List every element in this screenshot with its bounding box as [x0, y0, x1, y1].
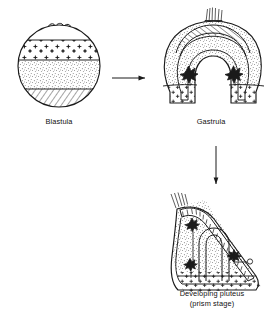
vegetal-star-band-right [228, 84, 266, 108]
stage-pluteus [165, 193, 270, 297]
development-sequence-diagram [0, 0, 280, 318]
label-pluteus: Developing pluteus (prism stage) [150, 289, 274, 308]
label-gastrula: Gastrula [152, 117, 270, 127]
band-equatorial-stipple [16, 60, 104, 89]
label-blastula: Blastula [0, 117, 118, 127]
arrow-blastula-to-gastrula [112, 76, 145, 81]
apical-tuft-icon [206, 8, 222, 23]
stage-gastrula [160, 8, 270, 116]
band-animal-stars [16, 40, 104, 60]
stage-blastula [16, 23, 104, 113]
arrow-gastrula-to-pluteus [214, 146, 219, 184]
